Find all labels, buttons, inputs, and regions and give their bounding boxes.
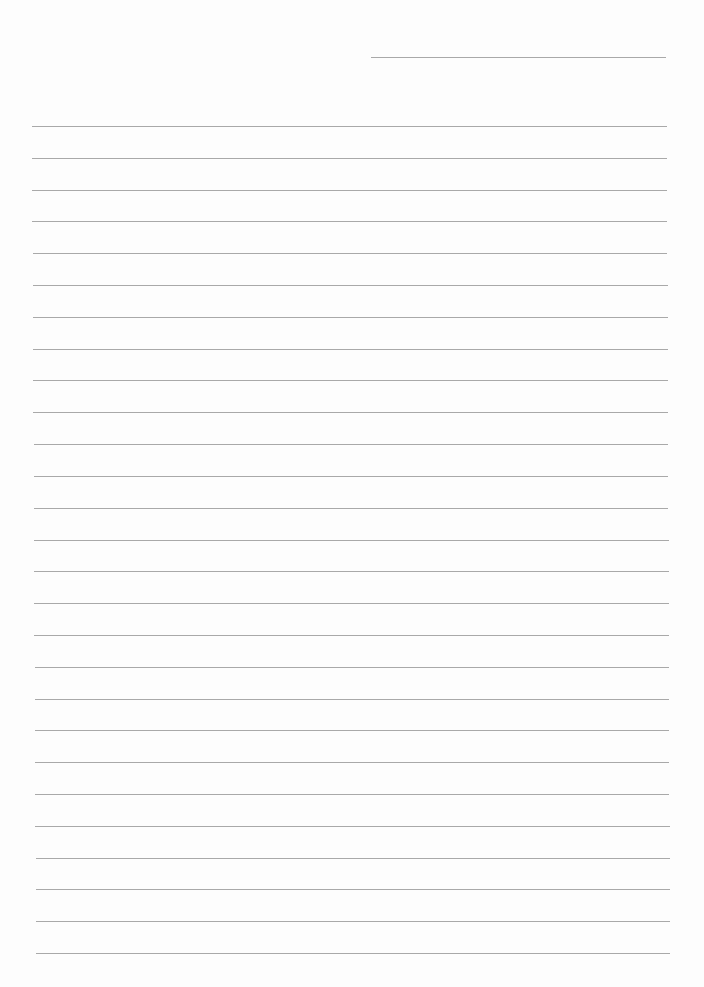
ruled-line: [32, 190, 667, 191]
ruled-line: [36, 953, 670, 954]
ruled-line: [32, 126, 667, 127]
ruled-line: [34, 444, 669, 445]
ruled-line: [34, 571, 668, 572]
ruled-line: [33, 349, 668, 350]
ruled-line: [33, 412, 668, 413]
ruled-line: [35, 762, 669, 763]
ruled-line: [36, 858, 670, 859]
ruled-line: [34, 603, 668, 604]
lined-paper-page: [0, 0, 704, 987]
ruled-line: [33, 253, 668, 254]
ruled-line: [34, 540, 669, 541]
ruled-line: [34, 635, 668, 636]
ruled-line: [32, 221, 667, 222]
ruled-line: [35, 699, 669, 700]
ruled-line: [32, 158, 667, 159]
ruled-line: [35, 667, 669, 668]
ruled-line: [33, 380, 668, 381]
ruled-line: [33, 317, 668, 318]
ruled-line: [34, 508, 669, 509]
ruled-line: [33, 285, 668, 286]
ruled-line: [36, 921, 670, 922]
ruled-line: [36, 889, 670, 890]
header-date-line: [371, 57, 666, 58]
ruled-line: [35, 794, 669, 795]
ruled-line: [35, 730, 669, 731]
ruled-line: [35, 826, 669, 827]
ruled-line: [34, 476, 669, 477]
